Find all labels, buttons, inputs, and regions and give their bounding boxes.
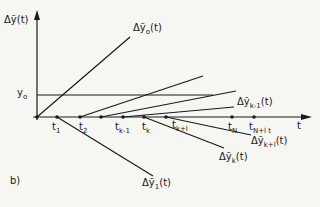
point-tN+1 (252, 115, 256, 119)
curve-label-dy1: Δỹ1(t) (142, 178, 171, 188)
point-tN (230, 115, 234, 119)
point-tk (142, 115, 146, 119)
point-tk+1 (164, 115, 168, 119)
y0-label: yo (17, 88, 27, 98)
t-axis-arrow-icon (301, 114, 312, 120)
point-tk-1 (121, 115, 125, 119)
tick-tk-1: tk-1 (115, 122, 130, 132)
y-axis-arrow-icon (34, 10, 40, 20)
t-axis-label: t (297, 121, 301, 131)
tick-tk: tk (142, 122, 150, 132)
point-t1 (55, 115, 59, 119)
curve-dy1 (57, 117, 153, 176)
tick-t1: t1 (52, 122, 60, 132)
panel-label: b) (10, 176, 20, 186)
point-t3 (99, 115, 103, 119)
curve-label-dyk: Δỹk(t) (219, 152, 248, 162)
curve-dy-k-1 (123, 107, 234, 117)
tick-tN+1: tN+l t (249, 122, 271, 132)
curve-label-dyk+1: Δỹk+l(t) (251, 136, 287, 146)
y0-sub: o (23, 93, 27, 101)
curve-from-t2 (80, 76, 203, 117)
point-origin (35, 115, 39, 119)
tick-tN: tN (228, 122, 237, 132)
curve-label-dy0: Δỹo(t) (133, 23, 162, 33)
tick-t2: t2 (79, 122, 87, 132)
tick-tk+1: tk+l (172, 120, 188, 130)
point-t2 (78, 115, 82, 119)
y-axis-label: Δỹ(t) (4, 15, 28, 25)
curve-label-dyk-1: Δỹk-1(t) (237, 97, 273, 107)
